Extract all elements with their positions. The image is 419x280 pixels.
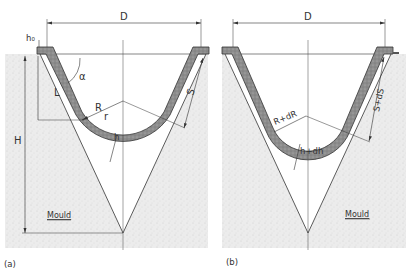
label-L: L bbox=[54, 87, 60, 98]
label-alpha: α bbox=[79, 71, 86, 82]
label-D-b: D bbox=[304, 11, 312, 22]
label-H: H bbox=[14, 135, 22, 146]
label-mould-b: Mould bbox=[345, 210, 369, 219]
radius-R-line bbox=[82, 101, 123, 120]
label-h0: h₀ bbox=[26, 33, 35, 43]
label-D-a: D bbox=[120, 11, 128, 22]
flange-tip bbox=[393, 52, 399, 54]
thermoforming-diagram: D h₀ H L α R r h S Mould (a) bbox=[0, 0, 419, 280]
panel-b: D R+dR h+dh S+dS Mould (b) bbox=[222, 11, 406, 267]
label-h: h bbox=[114, 132, 119, 142]
panel-a: D h₀ H L α R r h S Mould (a) bbox=[4, 11, 209, 269]
label-r: r bbox=[104, 111, 109, 122]
label-R-dR: R+dR bbox=[272, 108, 298, 126]
caption-a: (a) bbox=[4, 259, 16, 269]
label-R-a: R bbox=[95, 102, 102, 113]
label-h-dh: h+dh bbox=[300, 146, 323, 156]
caption-b: (b) bbox=[226, 257, 238, 267]
label-mould-a: Mould bbox=[47, 211, 71, 220]
